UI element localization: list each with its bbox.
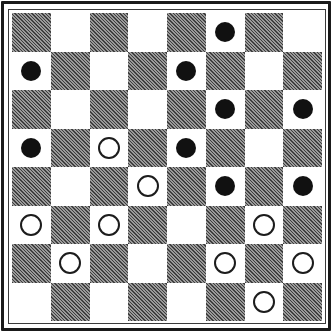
square-r5-c2[interactable] — [90, 206, 129, 245]
square-r3-c1[interactable] — [51, 129, 90, 168]
white-checker-piece[interactable] — [137, 175, 159, 197]
white-checker-piece[interactable] — [253, 291, 275, 313]
black-checker-piece[interactable] — [176, 61, 196, 81]
square-r3-c3[interactable] — [128, 129, 167, 168]
white-checker-piece[interactable] — [253, 214, 275, 236]
square-r5-c7[interactable] — [283, 206, 322, 245]
square-r1-c6[interactable] — [245, 52, 284, 91]
black-checker-piece[interactable] — [215, 22, 235, 42]
black-checker-piece[interactable] — [293, 99, 313, 119]
square-r6-c6[interactable] — [245, 244, 284, 283]
square-r4-c4[interactable] — [167, 167, 206, 206]
square-r3-c6[interactable] — [245, 129, 284, 168]
black-checker-piece[interactable] — [21, 61, 41, 81]
white-checker-piece[interactable] — [20, 214, 42, 236]
square-r4-c5[interactable] — [206, 167, 245, 206]
black-checker-piece[interactable] — [293, 176, 313, 196]
white-checker-piece[interactable] — [214, 252, 236, 274]
square-r4-c1[interactable] — [51, 167, 90, 206]
square-r1-c2[interactable] — [90, 52, 129, 91]
square-r2-c2[interactable] — [90, 90, 129, 129]
square-r3-c0[interactable] — [12, 129, 51, 168]
square-r6-c3[interactable] — [128, 244, 167, 283]
square-r6-c2[interactable] — [90, 244, 129, 283]
square-r4-c3[interactable] — [128, 167, 167, 206]
square-r5-c3[interactable] — [128, 206, 167, 245]
square-r7-c6[interactable] — [245, 283, 284, 322]
square-r0-c3[interactable] — [128, 13, 167, 52]
square-r5-c6[interactable] — [245, 206, 284, 245]
square-r6-c7[interactable] — [283, 244, 322, 283]
square-r0-c2[interactable] — [90, 13, 129, 52]
square-r3-c5[interactable] — [206, 129, 245, 168]
white-checker-piece[interactable] — [59, 252, 81, 274]
square-r1-c0[interactable] — [12, 52, 51, 91]
black-checker-piece[interactable] — [21, 138, 41, 158]
square-r6-c0[interactable] — [12, 244, 51, 283]
square-r6-c1[interactable] — [51, 244, 90, 283]
square-r0-c6[interactable] — [245, 13, 284, 52]
square-r5-c4[interactable] — [167, 206, 206, 245]
square-r6-c4[interactable] — [167, 244, 206, 283]
square-r0-c7[interactable] — [283, 13, 322, 52]
square-r5-c0[interactable] — [12, 206, 51, 245]
square-r4-c2[interactable] — [90, 167, 129, 206]
square-r4-c6[interactable] — [245, 167, 284, 206]
square-r4-c0[interactable] — [12, 167, 51, 206]
square-r4-c7[interactable] — [283, 167, 322, 206]
square-r1-c5[interactable] — [206, 52, 245, 91]
black-checker-piece[interactable] — [176, 138, 196, 158]
square-r1-c3[interactable] — [128, 52, 167, 91]
square-r1-c4[interactable] — [167, 52, 206, 91]
square-r2-c4[interactable] — [167, 90, 206, 129]
square-r2-c7[interactable] — [283, 90, 322, 129]
square-r2-c3[interactable] — [128, 90, 167, 129]
black-checker-piece[interactable] — [215, 99, 235, 119]
black-checker-piece[interactable] — [215, 176, 235, 196]
square-r7-c2[interactable] — [90, 283, 129, 322]
square-r5-c5[interactable] — [206, 206, 245, 245]
square-r7-c5[interactable] — [206, 283, 245, 322]
square-r1-c7[interactable] — [283, 52, 322, 91]
square-r2-c6[interactable] — [245, 90, 284, 129]
square-r7-c3[interactable] — [128, 283, 167, 322]
square-r0-c5[interactable] — [206, 13, 245, 52]
square-r3-c4[interactable] — [167, 129, 206, 168]
square-r0-c1[interactable] — [51, 13, 90, 52]
white-checker-piece[interactable] — [98, 137, 120, 159]
square-r7-c1[interactable] — [51, 283, 90, 322]
square-r0-c0[interactable] — [12, 13, 51, 52]
square-r0-c4[interactable] — [167, 13, 206, 52]
white-checker-piece[interactable] — [292, 252, 314, 274]
square-r2-c5[interactable] — [206, 90, 245, 129]
checkerboard — [12, 13, 322, 321]
square-r1-c1[interactable] — [51, 52, 90, 91]
square-r3-c2[interactable] — [90, 129, 129, 168]
square-r7-c0[interactable] — [12, 283, 51, 322]
square-r7-c7[interactable] — [283, 283, 322, 322]
square-r2-c0[interactable] — [12, 90, 51, 129]
white-checker-piece[interactable] — [98, 214, 120, 236]
square-r5-c1[interactable] — [51, 206, 90, 245]
square-r3-c7[interactable] — [283, 129, 322, 168]
square-r2-c1[interactable] — [51, 90, 90, 129]
square-r7-c4[interactable] — [167, 283, 206, 322]
square-r6-c5[interactable] — [206, 244, 245, 283]
